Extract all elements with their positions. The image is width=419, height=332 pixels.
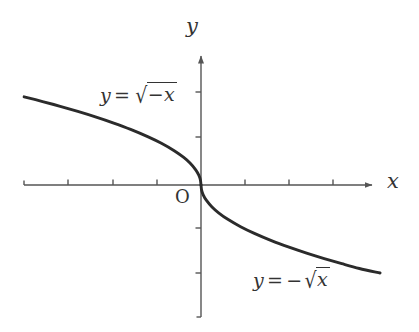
math-figure: y x O y=√−x y=−√x xyxy=(0,0,419,332)
radicand-left-sign: − xyxy=(148,83,164,105)
radicand-left: −x xyxy=(147,82,177,105)
y-axis-label: y xyxy=(186,14,198,38)
curve-label-right-equals: = xyxy=(264,269,286,291)
curve-label-neg-sqrt-x: y=−√x xyxy=(253,268,330,291)
radicand-right: x xyxy=(316,267,330,290)
radical-group-left: √−x xyxy=(133,83,177,106)
coordinate-plot xyxy=(0,0,419,332)
curve-label-sqrt-neg-x: y=√−x xyxy=(100,83,177,106)
radicand-right-var: x xyxy=(317,268,328,290)
origin-label: O xyxy=(175,186,190,207)
radical-group-right: √x xyxy=(303,268,330,291)
x-axis xyxy=(24,180,372,186)
curve-label-right-minus: − xyxy=(286,269,302,291)
x-axis-label: x xyxy=(387,169,399,193)
curve-neg-sqrt-x xyxy=(201,185,380,273)
curve-label-left-lhs: y xyxy=(100,84,111,106)
radicand-left-var: x xyxy=(164,83,175,105)
curve-label-right-lhs: y xyxy=(253,269,264,291)
curve-label-left-equals: = xyxy=(111,84,133,106)
curve-sqrt-neg-x xyxy=(24,97,201,185)
